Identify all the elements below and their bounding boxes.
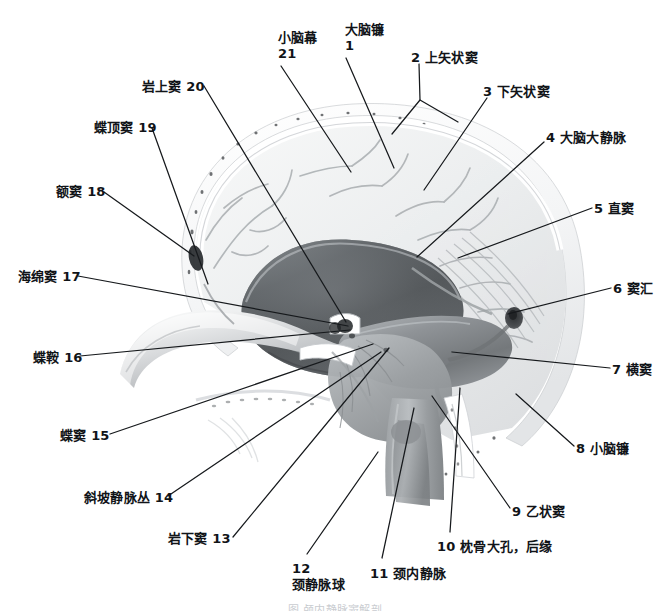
leader-lines xyxy=(0,0,670,611)
leader-line-2-branch xyxy=(420,100,458,122)
label-20-text: 岩上窦 20 xyxy=(142,79,205,94)
label-14-text: 斜坡静脉丛 14 xyxy=(84,490,173,505)
label-12-line-2: 颈静脉球 xyxy=(292,577,345,593)
label-16-text: 蝶鞍 16 xyxy=(33,350,83,365)
leader-line-7 xyxy=(452,352,610,368)
label-21-小脑幕[interactable]: 小脑幕21 xyxy=(278,30,318,62)
label-14-斜坡静脉丛[interactable]: 斜坡静脉丛 14 xyxy=(84,490,173,505)
label-21-line-1: 小脑幕 xyxy=(278,30,318,46)
anatomy-figure: 小脑幕21大脑镰12 上矢状窦3 下矢状窦4 大脑大静脉5 直窦6 窦汇7 横窦… xyxy=(0,0,670,611)
label-1-line-1: 大脑镰 xyxy=(345,22,385,38)
leader-line-11 xyxy=(382,408,414,558)
label-17-海绵窦[interactable]: 海绵窦 17 xyxy=(18,269,81,284)
label-7-text: 7 横窦 xyxy=(612,362,652,377)
leader-line-18 xyxy=(104,192,194,256)
label-19-蝶顶窦[interactable]: 蝶顶窦 19 xyxy=(94,120,157,135)
leader-line-15 xyxy=(110,344,373,434)
leader-line-5 xyxy=(458,208,592,258)
label-5-text: 5 直窦 xyxy=(594,201,634,216)
label-8-text: 8 小脑镰 xyxy=(576,441,630,456)
label-15-蝶窦[interactable]: 蝶窦 15 xyxy=(60,428,110,443)
label-2-上矢状窦[interactable]: 2 上矢状窦 xyxy=(411,50,478,65)
label-4-大脑大静脉[interactable]: 4 大脑大静脉 xyxy=(546,130,626,145)
label-6-窦汇[interactable]: 6 窦汇 xyxy=(613,281,653,296)
leader-line-17 xyxy=(78,276,348,326)
label-6-text: 6 窦汇 xyxy=(613,281,653,296)
label-3-text: 3 下矢状窦 xyxy=(483,84,550,99)
leader-line-14 xyxy=(168,352,381,496)
leader-line-20 xyxy=(204,86,346,322)
label-4-text: 4 大脑大静脉 xyxy=(546,130,626,145)
leader-line-19 xyxy=(152,128,208,284)
leader-line-1 xyxy=(346,58,394,168)
label-21-line-2: 21 xyxy=(278,46,318,62)
label-15-text: 蝶窦 15 xyxy=(60,428,110,443)
leader-line-9 xyxy=(432,396,510,508)
label-16-蝶鞍[interactable]: 蝶鞍 16 xyxy=(33,350,83,365)
label-20-岩上窦[interactable]: 岩上窦 20 xyxy=(142,79,205,94)
label-8-小脑镰[interactable]: 8 小脑镰 xyxy=(576,441,630,456)
label-1-line-2: 1 xyxy=(345,38,385,54)
label-12-颈静脉球[interactable]: 12颈静脉球 xyxy=(292,561,345,593)
label-10-text: 10 枕骨大孔，后缘 xyxy=(437,539,553,554)
leader-line-10 xyxy=(450,388,460,532)
label-1-大脑镰[interactable]: 大脑镰1 xyxy=(345,22,385,54)
label-11-颈内静脉[interactable]: 11 颈内静脉 xyxy=(370,566,446,581)
label-7-横窦[interactable]: 7 横窦 xyxy=(612,362,652,377)
label-17-text: 海绵窦 17 xyxy=(18,269,81,284)
label-9-乙状窦[interactable]: 9 乙状窦 xyxy=(512,504,566,519)
label-3-下矢状窦[interactable]: 3 下矢状窦 xyxy=(483,84,550,99)
anatomical-illustration xyxy=(0,0,670,611)
label-2-text: 2 上矢状窦 xyxy=(411,50,478,65)
leader-line-13 xyxy=(233,348,389,537)
label-13-text: 岩下窦 13 xyxy=(168,531,231,546)
label-11-text: 11 颈内静脉 xyxy=(370,566,446,581)
leader-line-6 xyxy=(508,288,611,314)
leader-line-4 xyxy=(417,142,544,257)
leader-line-21 xyxy=(281,66,351,172)
label-18-text: 额窦 18 xyxy=(56,184,106,199)
leader-line-12 xyxy=(307,452,378,554)
label-19-text: 蝶顶窦 19 xyxy=(94,120,157,135)
label-10-枕骨大孔，后缘[interactable]: 10 枕骨大孔，后缘 xyxy=(437,539,553,554)
leader-line-8 xyxy=(516,394,574,446)
label-9-text: 9 乙状窦 xyxy=(512,504,566,519)
leader-line-3 xyxy=(424,98,487,190)
leader-line-16 xyxy=(80,330,350,356)
label-13-岩下窦[interactable]: 岩下窦 13 xyxy=(168,531,231,546)
figure-caption: 图 颅内静脉窦解剖 xyxy=(0,601,670,611)
label-5-直窦[interactable]: 5 直窦 xyxy=(594,201,634,216)
label-18-额窦[interactable]: 额窦 18 xyxy=(56,184,106,199)
leader-line-2 xyxy=(392,64,420,134)
label-12-line-1: 12 xyxy=(292,561,345,577)
